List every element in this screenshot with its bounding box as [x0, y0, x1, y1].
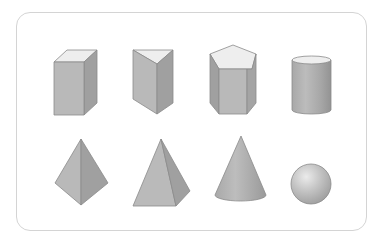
pentagonal-prism [210, 45, 256, 114]
rectangular-prism [54, 50, 97, 115]
triangular-pyramid [55, 139, 108, 205]
figure-stage [0, 0, 383, 242]
triangular-prism [133, 50, 173, 114]
cylinder [292, 56, 331, 114]
cone [215, 136, 266, 201]
sphere [291, 164, 331, 204]
square-pyramid [133, 139, 190, 206]
solids-figure [0, 0, 383, 242]
